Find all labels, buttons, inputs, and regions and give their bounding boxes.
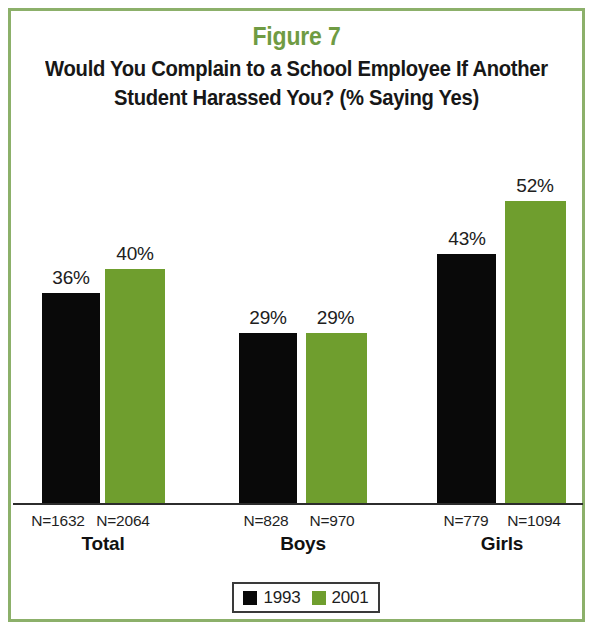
bar-value-boys-1993: 29% bbox=[239, 307, 297, 329]
category-label-boys: Boys bbox=[239, 533, 367, 555]
legend-item-1993[interactable]: 1993 bbox=[243, 588, 300, 608]
figure-chart: Figure 7 Would You Complain to a School … bbox=[0, 0, 593, 630]
bar-boys-2001[interactable] bbox=[306, 333, 367, 505]
bar-boys-1993[interactable] bbox=[239, 333, 297, 505]
plot-area: 36% 40% 29% 29% 43% 52% bbox=[13, 130, 581, 505]
bar-total-2001[interactable] bbox=[105, 269, 165, 505]
bar-value-girls-1993: 43% bbox=[437, 228, 497, 250]
page-title: Would You Complain to a School Employee … bbox=[35, 55, 559, 113]
legend-label-2001: 2001 bbox=[332, 588, 369, 608]
category-label-total: Total bbox=[42, 533, 164, 555]
n-label-boys-2001: N=970 bbox=[288, 512, 376, 530]
legend-swatch-2001-icon bbox=[312, 591, 326, 605]
figure-number-label: Figure 7 bbox=[24, 22, 570, 51]
bar-value-girls-2001: 52% bbox=[504, 175, 566, 197]
legend-swatch-1993-icon bbox=[243, 591, 257, 605]
bar-value-boys-2001: 29% bbox=[305, 307, 366, 329]
legend-label-1993: 1993 bbox=[263, 588, 300, 608]
n-label-girls-2001: N=1094 bbox=[488, 512, 580, 530]
bar-girls-1993[interactable] bbox=[437, 254, 496, 505]
chart-title-line-2: Student Harassed You? (% Saying Yes) bbox=[35, 84, 559, 113]
bar-girls-2001[interactable] bbox=[505, 201, 566, 505]
legend-item-2001[interactable]: 2001 bbox=[312, 588, 369, 608]
bar-value-total-1993: 36% bbox=[41, 267, 101, 289]
category-label-girls: Girls bbox=[437, 533, 567, 555]
bar-total-1993[interactable] bbox=[42, 293, 100, 505]
n-label-total-2001: N=2064 bbox=[77, 512, 169, 530]
chart-title-line-1: Would You Complain to a School Employee … bbox=[35, 55, 559, 84]
x-axis-line bbox=[13, 503, 583, 505]
chart-legend: 1993 2001 bbox=[232, 582, 380, 613]
bar-value-total-2001: 40% bbox=[104, 243, 166, 265]
